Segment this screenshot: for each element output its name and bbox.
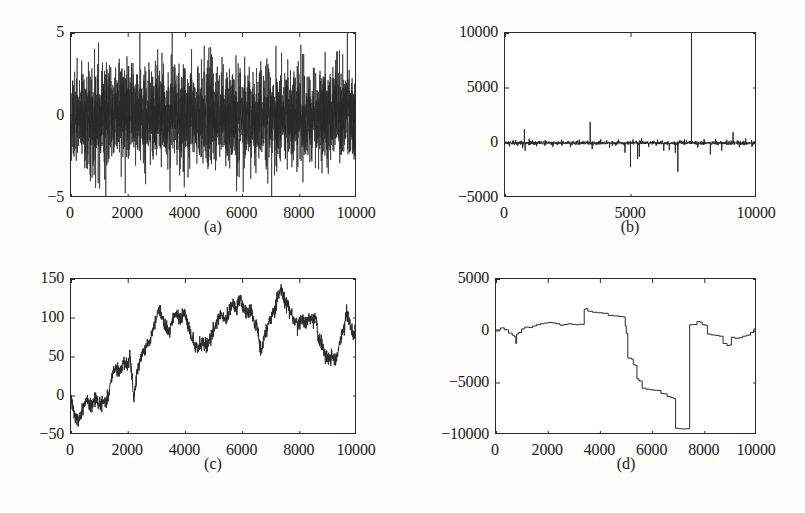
y-tick-label-c-1: 0 bbox=[56, 387, 64, 403]
plot-frame-d bbox=[495, 278, 756, 434]
x-tick-label-a-4: 8000 bbox=[283, 205, 314, 221]
x-tick-label-c-3: 6000 bbox=[226, 442, 257, 458]
y-tick-label-d-0: −10000 bbox=[441, 426, 489, 442]
y-tick-label-b-0: −5000 bbox=[458, 189, 498, 205]
x-tick-label-a-0: 0 bbox=[66, 205, 74, 221]
panel-a: −505 0200040006000800010000 (a) bbox=[0, 0, 402, 256]
panel-caption-a: (a) bbox=[204, 219, 222, 235]
x-tick-label-d-4: 8000 bbox=[688, 442, 719, 458]
plot-curve-c bbox=[71, 279, 356, 434]
y-tick-label-d-3: 5000 bbox=[458, 270, 489, 286]
y-tick-label-a-1: 0 bbox=[56, 107, 64, 123]
y-tick-label-c-2: 50 bbox=[48, 348, 64, 364]
plot-curve-d bbox=[496, 279, 756, 434]
figure-container: −505 0200040006000800010000 (a) −5000050… bbox=[0, 0, 805, 513]
x-tick-label-b-0: 0 bbox=[500, 205, 508, 221]
x-tick-label-d-2: 4000 bbox=[584, 442, 615, 458]
plot-curve-b bbox=[505, 33, 756, 197]
x-tick-label-a-2: 4000 bbox=[169, 205, 200, 221]
panel-b: −50000500010000 0500010000 (b) bbox=[402, 0, 805, 256]
y-tick-label-b-3: 10000 bbox=[459, 24, 498, 40]
panel-caption-b: (b) bbox=[621, 219, 640, 235]
x-tick-label-d-0: 0 bbox=[491, 442, 499, 458]
panel-caption-c: (c) bbox=[204, 456, 222, 472]
x-tick-label-c-0: 0 bbox=[66, 442, 74, 458]
x-tick-label-c-4: 8000 bbox=[283, 442, 314, 458]
plot-frame-a bbox=[70, 32, 356, 197]
y-tick-label-c-0: −50 bbox=[40, 426, 64, 442]
panel-caption-d: (d) bbox=[617, 456, 636, 472]
y-tick-label-d-1: −5000 bbox=[449, 374, 489, 390]
plot-frame-b bbox=[504, 32, 756, 197]
y-tick-label-d-2: 0 bbox=[481, 322, 489, 338]
x-tick-label-a-5: 10000 bbox=[336, 205, 375, 221]
plot-curve-a bbox=[71, 33, 356, 197]
y-tick-label-b-2: 5000 bbox=[467, 79, 498, 95]
x-tick-label-d-3: 6000 bbox=[636, 442, 667, 458]
y-tick-label-a-0: −5 bbox=[47, 189, 64, 205]
x-tick-label-c-1: 2000 bbox=[112, 442, 143, 458]
x-tick-label-c-5: 10000 bbox=[336, 442, 375, 458]
x-tick-label-d-1: 2000 bbox=[532, 442, 563, 458]
y-tick-label-c-3: 100 bbox=[41, 309, 64, 325]
x-tick-label-c-2: 4000 bbox=[169, 442, 200, 458]
y-tick-label-c-4: 150 bbox=[41, 270, 64, 286]
panel-c: −50050100150 0200040006000800010000 (c) bbox=[0, 256, 402, 513]
plot-frame-c bbox=[70, 278, 356, 434]
panel-d: −10000−500005000 0200040006000800010000 … bbox=[402, 256, 805, 513]
x-tick-label-a-1: 2000 bbox=[112, 205, 143, 221]
y-tick-label-b-1: 0 bbox=[490, 134, 498, 150]
x-tick-label-b-2: 10000 bbox=[736, 205, 775, 221]
x-tick-label-d-5: 10000 bbox=[736, 442, 775, 458]
x-tick-label-a-3: 6000 bbox=[226, 205, 257, 221]
y-tick-label-a-2: 5 bbox=[56, 24, 64, 40]
